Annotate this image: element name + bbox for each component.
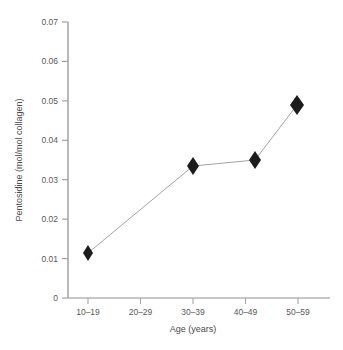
y-tick-label-0: 0 (53, 293, 58, 303)
y-tick-label-0.05: 0.05 (41, 96, 58, 106)
x-axis-ticks (88, 298, 298, 304)
x-tick-label-20-29: 20–29 (129, 307, 153, 317)
x-tick-label-30-39: 30–39 (181, 307, 205, 317)
y-axis-ticks (62, 22, 68, 298)
x-tick-label-50-59: 50–59 (286, 307, 310, 317)
y-axis-title: Pentosidine (mol/mol collagen) (14, 98, 24, 221)
y-tick-label-0.04: 0.04 (41, 135, 58, 145)
y-tick-label-0.03: 0.03 (41, 175, 58, 185)
x-axis-title: Age (years) (170, 324, 217, 334)
x-tick-label-10-19: 10–19 (76, 307, 100, 317)
y-tick-label-0.07: 0.07 (41, 17, 58, 27)
x-tick-label-40-49: 40–49 (234, 307, 258, 317)
pentosidine-age-line-chart: 0.07 0.06 0.05 0.04 0.03 0.02 0.01 0 10–… (0, 0, 343, 350)
data-line-pentosidine (88, 105, 297, 253)
data-point-30-39 (187, 157, 199, 175)
y-tick-label-0.06: 0.06 (41, 56, 58, 66)
data-point-10-19 (83, 245, 93, 261)
y-tick-label-0.02: 0.02 (41, 214, 58, 224)
chart-canvas: 0.07 0.06 0.05 0.04 0.03 0.02 0.01 0 10–… (0, 0, 343, 350)
y-tick-label-0.01: 0.01 (41, 254, 58, 264)
